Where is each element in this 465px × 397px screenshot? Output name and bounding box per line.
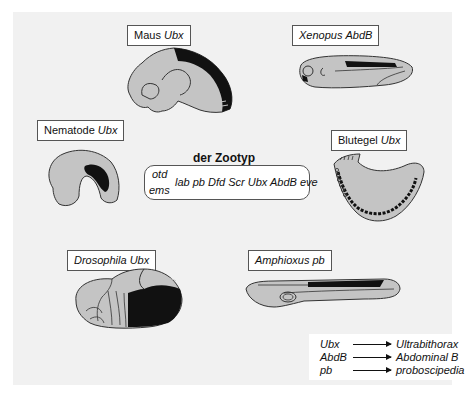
arrow-right-icon [353, 370, 391, 371]
organism-name: Amphioxus [255, 254, 309, 266]
arrow-right-icon [353, 344, 391, 345]
gene-ems: ems [149, 184, 170, 196]
organism-name: Xenopus [299, 29, 342, 41]
xenopus-tadpole-illustration [295, 53, 417, 93]
label-nematode-ubx: Nematode Ubx [37, 120, 124, 141]
organism-name: Blutegel [338, 134, 378, 146]
legend-full-name: proboscipedia [396, 364, 465, 377]
legend-abbr: Ubx [320, 338, 340, 351]
label-xenopus-abdb: Xenopus AbdB [292, 25, 379, 46]
gene-name: Ubx [381, 134, 401, 146]
hox-gene-row: lab pb Dfd Scr Ubx AbdB eve [175, 176, 318, 188]
mouse-embryo-illustration [122, 45, 237, 115]
gene-name: Ubx [164, 29, 184, 41]
drosophila-embryo-illustration [72, 267, 184, 329]
zootyp-title: der Zootyp [193, 151, 255, 165]
label-amphioxus-pb: Amphioxus pb [248, 250, 332, 271]
nematode-illustration [43, 148, 123, 210]
gene-name: Ubx [98, 124, 118, 136]
gene-name: pb [312, 254, 324, 266]
legend-abbr: pb [320, 364, 332, 377]
label-maus-ubx: Maus Ubx [127, 25, 191, 46]
gene-name: Ubx [130, 254, 150, 266]
organism-name: Drosophila [74, 254, 127, 266]
gene-otd: otd [152, 168, 167, 180]
label-blutegel-ubx: Blutegel Ubx [331, 130, 407, 151]
zootyp-gene-cluster: otd ems lab pb Dfd Scr Ubx AbdB eve [144, 165, 310, 200]
legend-full-name: Ultrabithorax [396, 338, 458, 351]
legend-full-name: Abdominal B [396, 351, 458, 364]
arrow-right-icon [353, 357, 391, 358]
amphioxus-illustration [244, 275, 402, 310]
leech-illustration [330, 150, 430, 225]
organism-name: Nematode [44, 124, 95, 136]
gene-legend: Ubx Ultrabithorax AbdB Abdominal B pb pr… [309, 334, 454, 380]
organism-name: Maus [134, 29, 161, 41]
legend-abbr: AbdB [320, 351, 347, 364]
gene-name: AbdB [346, 29, 373, 41]
